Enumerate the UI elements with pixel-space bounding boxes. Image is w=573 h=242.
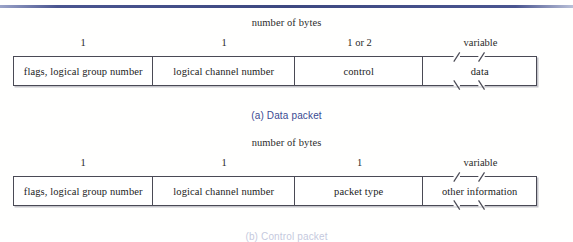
field-size-label: 1 — [80, 156, 85, 170]
packet-field: flags, logical group number — [14, 57, 153, 85]
packet-diagram: flags, logical group number logical chan… — [13, 56, 537, 86]
bytes-axis-title: number of bytes — [0, 16, 573, 30]
field-size-label: variable — [464, 156, 498, 170]
field-size-label: 1 — [221, 36, 226, 50]
field-size-label: 1 — [80, 36, 85, 50]
figure-data-packet: number of bytes 1 1 1 or 2 variable flag… — [0, 16, 573, 56]
field-size-label: 1 — [357, 156, 362, 170]
packet-field-label: other information — [442, 186, 517, 197]
field-size-label: 1 — [221, 156, 226, 170]
packet-field: flags, logical group number — [14, 177, 153, 205]
packet-field: packet type — [295, 177, 424, 205]
figure-caption-b: (b) Control packet — [0, 231, 573, 242]
figure-control-packet: number of bytes 1 1 1 variable flags, lo… — [0, 136, 573, 176]
packet-field-label: control — [343, 66, 373, 77]
bytes-axis-title: number of bytes — [0, 136, 573, 150]
packet-field-label: logical channel number — [173, 66, 274, 77]
packet-field-label: packet type — [334, 186, 383, 197]
field-size-label-row: 1 1 1 variable — [0, 156, 573, 176]
field-size-label: variable — [464, 36, 498, 50]
figure-caption-a: (a) Data packet — [0, 110, 573, 121]
packet-field-label: data — [471, 66, 489, 77]
packet-field: logical channel number — [153, 177, 294, 205]
packet-field: logical channel number — [153, 57, 294, 85]
packet-field: control — [295, 57, 424, 85]
field-size-label-row: 1 1 1 or 2 variable — [0, 36, 573, 56]
packet-field-truncated: other information — [423, 177, 536, 205]
packet-diagram: flags, logical group number logical chan… — [13, 176, 537, 206]
packet-field-truncated: data — [423, 57, 536, 85]
packet-field-label: logical channel number — [173, 186, 274, 197]
field-size-label: 1 or 2 — [347, 36, 372, 50]
packet-field-label: flags, logical group number — [24, 66, 143, 77]
top-divider-rule — [0, 5, 573, 8]
packet-field-label: flags, logical group number — [24, 186, 143, 197]
